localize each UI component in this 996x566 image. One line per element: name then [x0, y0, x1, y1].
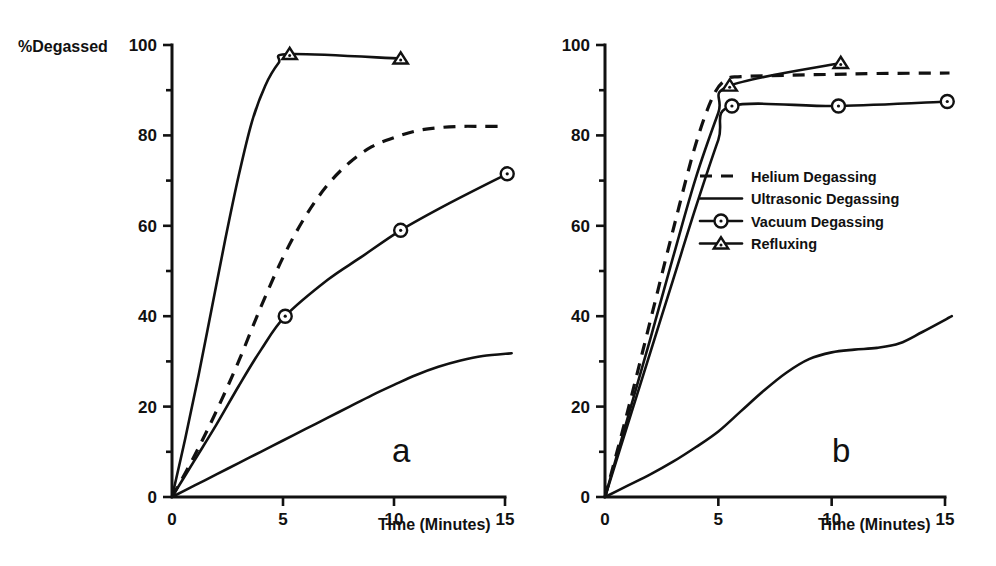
y-tick-label: 20	[138, 398, 157, 417]
panel-a-x-axis-title: Time (Minutes)	[378, 516, 491, 533]
panel-b-letter: b	[832, 432, 850, 469]
panel-a-letter: a	[392, 432, 411, 469]
legend-label: Vacuum Degassing	[751, 214, 884, 230]
x-tick-label: 15	[496, 510, 515, 529]
y-tick-label: 40	[571, 307, 590, 326]
legend-label: Refluxing	[751, 236, 817, 252]
x-tick-label: 0	[167, 510, 176, 529]
y-tick-label: 80	[138, 126, 157, 145]
data-point-circle	[715, 215, 728, 228]
x-tick-label: 0	[600, 510, 609, 529]
x-tick-label: 15	[936, 510, 955, 529]
data-point-circle	[941, 95, 954, 108]
y-tick-label: 100	[129, 36, 157, 55]
legend-label: Ultrasonic Degassing	[751, 191, 899, 207]
y-tick-label: 80	[571, 126, 590, 145]
y-tick-label: 40	[138, 307, 157, 326]
data-point-circle	[725, 100, 738, 113]
y-tick-label: 20	[571, 398, 590, 417]
data-point-circle	[501, 167, 514, 180]
y-tick-label: 60	[571, 217, 590, 236]
y-tick-label: 60	[138, 217, 157, 236]
y-tick-label: 0	[581, 488, 590, 507]
figure-background	[0, 0, 996, 566]
x-tick-label: 5	[714, 510, 723, 529]
y-axis-title: %Degassed	[18, 38, 108, 55]
x-tick-label: 5	[278, 510, 287, 529]
data-point-circle	[832, 100, 845, 113]
legend-label: Helium Degassing	[751, 169, 877, 185]
data-point-circle	[394, 224, 407, 237]
y-tick-label: 0	[148, 488, 157, 507]
degassing-figure: 020406080100 051015 %Degassed Time (Minu…	[0, 0, 996, 566]
panel-b-x-axis-title: Time (Minutes)	[818, 516, 931, 533]
data-point-circle	[279, 310, 292, 323]
y-tick-label: 100	[562, 36, 590, 55]
chart-canvas: 020406080100 051015 %Degassed Time (Minu…	[0, 0, 996, 566]
